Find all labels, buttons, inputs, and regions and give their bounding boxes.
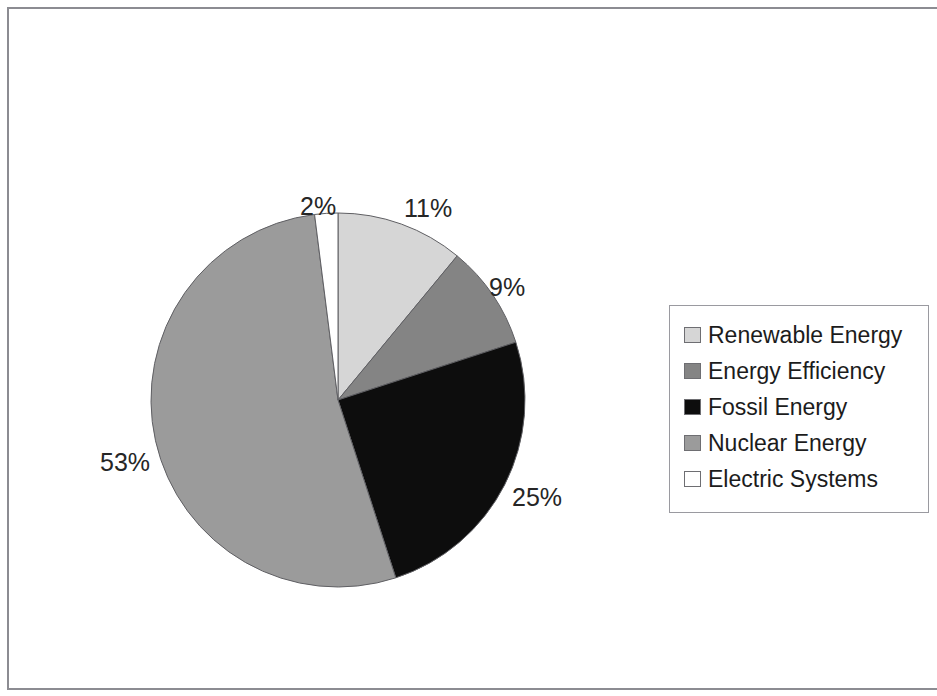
legend-item-renewable-energy: Renewable Energy xyxy=(684,317,928,353)
legend-item-energy-efficiency: Energy Efficiency xyxy=(684,353,928,389)
legend-swatch-icon xyxy=(684,471,701,487)
slice-label-electric-systems: 2% xyxy=(300,192,336,221)
legend-swatch-icon xyxy=(684,327,701,343)
chart-legend: Renewable EnergyEnergy EfficiencyFossil … xyxy=(669,305,929,513)
pie-graphic xyxy=(150,212,526,588)
legend-item-label: Electric Systems xyxy=(708,468,878,491)
legend-item-label: Renewable Energy xyxy=(708,324,902,347)
slice-label-nuclear-energy: 53% xyxy=(100,448,150,477)
legend-item-label: Energy Efficiency xyxy=(708,360,885,383)
legend-swatch-icon xyxy=(684,363,701,379)
legend-item-nuclear-energy: Nuclear Energy xyxy=(684,425,928,461)
legend-item-label: Nuclear Energy xyxy=(708,432,867,455)
legend-swatch-icon xyxy=(684,435,701,451)
legend-swatch-icon xyxy=(684,399,701,415)
legend-item-label: Fossil Energy xyxy=(708,396,847,419)
slice-label-energy-efficiency: 9% xyxy=(489,273,525,302)
pie-slices xyxy=(151,213,525,587)
slice-label-fossil-energy: 25% xyxy=(512,483,562,512)
slice-label-renewable-energy: 11% xyxy=(404,194,452,223)
legend-item-fossil-energy: Fossil Energy xyxy=(684,389,928,425)
legend-item-electric-systems: Electric Systems xyxy=(684,461,928,497)
